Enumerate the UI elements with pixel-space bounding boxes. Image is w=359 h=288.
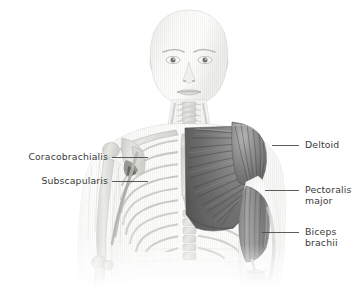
neck-group: [168, 100, 210, 128]
cervical-vertebrae: [182, 102, 196, 128]
left-fade: [60, 120, 104, 288]
label-deltoid: Deltoid: [305, 139, 339, 150]
label-pectoralis-major: Pectoralis major: [305, 184, 351, 206]
label-biceps-brachii: Biceps brachii: [305, 226, 338, 248]
label-coracobrachialis: Coracobrachialis: [4, 151, 108, 162]
label-subscapularis: Subscapularis: [4, 175, 108, 186]
head-group: [150, 10, 228, 106]
anatomy-figure: Coracobrachialis Subscapularis Deltoid P…: [0, 0, 359, 288]
